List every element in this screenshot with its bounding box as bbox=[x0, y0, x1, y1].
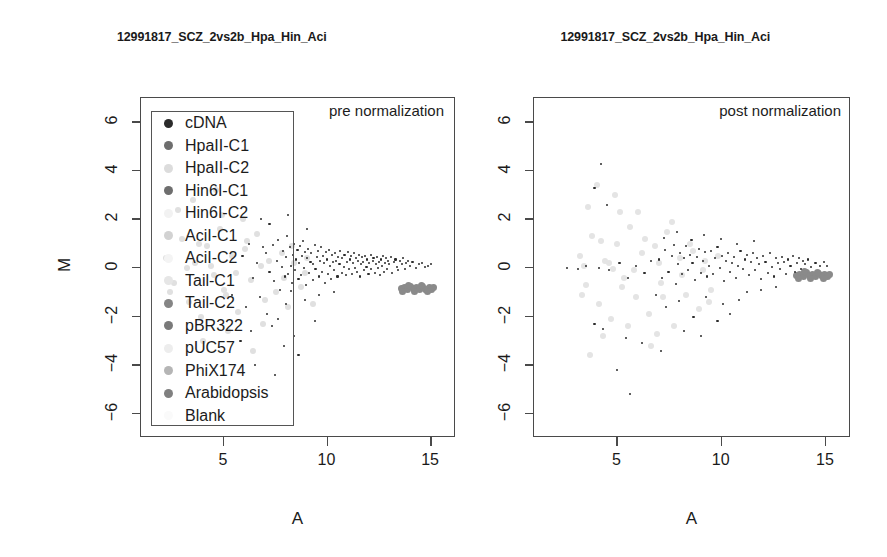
x-tick-label: 5 bbox=[203, 451, 243, 469]
scatter-point bbox=[391, 272, 393, 274]
scatter-point bbox=[354, 267, 356, 269]
scatter-point bbox=[330, 278, 332, 280]
legend-item-label: Arabidopsis bbox=[185, 383, 269, 403]
scatter-point bbox=[343, 254, 345, 256]
scatter-point bbox=[331, 254, 333, 256]
scatter-point bbox=[404, 268, 406, 270]
scatter-point bbox=[735, 277, 737, 279]
scatter-point bbox=[721, 255, 723, 257]
scatter-point bbox=[664, 229, 670, 235]
scatter-point bbox=[367, 273, 369, 275]
scatter-point bbox=[308, 272, 310, 274]
y-tick-mark bbox=[525, 267, 533, 268]
scatter-point bbox=[323, 262, 325, 264]
scatter-point bbox=[722, 303, 724, 305]
scatter-point bbox=[642, 236, 648, 242]
scatter-point bbox=[771, 266, 773, 268]
scatter-point bbox=[729, 271, 731, 273]
legend-item: pBR322 bbox=[152, 315, 295, 338]
scatter-point bbox=[589, 233, 595, 239]
scatter-point bbox=[617, 209, 623, 215]
legend-item-label: pBR322 bbox=[185, 316, 243, 336]
scatter-point bbox=[625, 323, 631, 329]
legend-item-label: cDNA bbox=[185, 113, 227, 133]
scatter-point bbox=[326, 258, 328, 260]
scatter-point bbox=[386, 268, 388, 270]
scatter-point bbox=[375, 263, 377, 265]
annotation-post-normalization: post normalization bbox=[719, 102, 841, 119]
x-axis-title-pre: A bbox=[268, 509, 328, 529]
y-tick-mark bbox=[132, 364, 140, 365]
legend-dot-icon bbox=[164, 389, 173, 398]
scatter-point bbox=[314, 244, 316, 246]
scatter-point bbox=[399, 288, 406, 295]
plot-panel-pre: 12991817_SCZ_2vs2b_Hpa_Hin_Aci pre norma… bbox=[0, 0, 444, 557]
scatter-point bbox=[337, 256, 339, 258]
scatter-point bbox=[671, 255, 673, 257]
scatter-point bbox=[676, 231, 678, 233]
legend: cDNAHpaII-C1HpaII-C2Hin6I-C1Hin6I-C2AciI… bbox=[151, 111, 294, 426]
scatter-point bbox=[379, 274, 381, 276]
scatter-point bbox=[332, 261, 334, 263]
y-tick-mark bbox=[525, 121, 533, 122]
y-tick-label: 6 bbox=[496, 100, 514, 140]
scatter-point bbox=[577, 253, 583, 259]
scatter-point bbox=[374, 272, 376, 274]
scatter-point bbox=[692, 316, 694, 318]
y-tick-mark bbox=[132, 413, 140, 414]
legend-item-label: Hin6I-C1 bbox=[185, 181, 248, 201]
legend-dot-icon bbox=[164, 276, 173, 285]
scatter-point bbox=[654, 331, 660, 337]
scatter-point bbox=[334, 252, 336, 254]
scatter-point bbox=[723, 280, 725, 282]
scatter-point bbox=[635, 265, 637, 267]
scatter-point bbox=[658, 258, 660, 260]
scatter-point bbox=[639, 250, 645, 256]
scatter-point bbox=[427, 265, 429, 267]
scatter-point bbox=[348, 268, 350, 270]
scatter-point bbox=[796, 262, 798, 264]
y-tick-mark bbox=[132, 218, 140, 219]
scatter-point bbox=[725, 260, 727, 262]
scatter-point bbox=[299, 245, 301, 247]
scatter-point bbox=[663, 237, 665, 239]
scatter-point bbox=[671, 323, 677, 329]
scatter-point bbox=[355, 257, 357, 259]
legend-dot-icon bbox=[164, 186, 173, 195]
scatter-point bbox=[814, 262, 816, 264]
scatter-point bbox=[683, 330, 685, 332]
y-tick-label: 4 bbox=[496, 149, 514, 189]
scatter-point bbox=[631, 267, 637, 273]
scatter-point bbox=[341, 272, 343, 274]
scatter-point bbox=[393, 261, 395, 263]
scatter-point bbox=[826, 265, 828, 267]
x-tick-mark bbox=[616, 437, 617, 446]
y-tick-label: 4 bbox=[103, 149, 121, 189]
legend-dot-icon bbox=[164, 164, 173, 173]
scatter-point bbox=[376, 256, 378, 258]
panel-title-post: 12991817_SCZ_2vs2b_Hpa_Hin_Aci bbox=[444, 30, 887, 44]
scatter-point bbox=[310, 301, 316, 307]
scatter-point bbox=[627, 224, 633, 230]
legend-item-label: AciI-C1 bbox=[185, 226, 237, 246]
scatter-point bbox=[618, 262, 620, 264]
y-tick-label: 2 bbox=[103, 197, 121, 237]
legend-item: Tail-C1 bbox=[152, 270, 295, 293]
legend-item: HpaII-C1 bbox=[152, 135, 295, 158]
scatter-point bbox=[706, 299, 712, 305]
legend-dot-icon bbox=[164, 231, 173, 240]
legend-dot-icon bbox=[164, 344, 173, 353]
scatter-point bbox=[587, 352, 593, 358]
x-tick-label: 5 bbox=[596, 451, 636, 469]
scatter-point bbox=[318, 294, 320, 296]
scatter-point bbox=[356, 271, 358, 273]
scatter-point bbox=[357, 260, 359, 262]
scatter-point bbox=[720, 238, 722, 240]
scatter-point bbox=[656, 260, 662, 266]
y-tick-label: 2 bbox=[496, 197, 514, 237]
scatter-point bbox=[706, 275, 708, 277]
legend-item-label: HpaII-C1 bbox=[185, 136, 249, 156]
scatter-point bbox=[368, 262, 370, 264]
scatter-point bbox=[823, 261, 825, 263]
scatter-point bbox=[795, 275, 802, 282]
